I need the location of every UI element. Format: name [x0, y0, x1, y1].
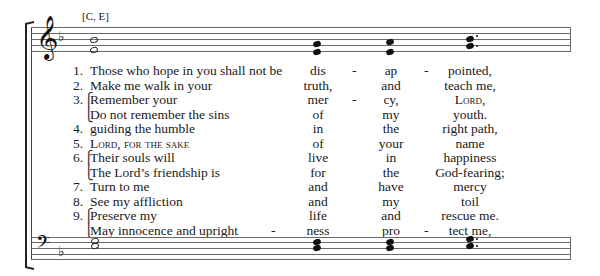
syllable-3: pointed, — [425, 63, 515, 78]
syllable-3: toil — [425, 194, 515, 209]
whole-note-icon — [89, 46, 99, 54]
syllable-1: live — [288, 150, 348, 165]
staff-end-barline — [570, 27, 571, 52]
note-head-icon — [312, 40, 322, 48]
verse-row: 5. Lord, for the sake of your name — [0, 136, 600, 151]
bass-clef-icon: 𝄢 — [36, 234, 50, 256]
verse-text: Remember your — [90, 92, 177, 107]
flat-key-signature-icon: ♭ — [58, 244, 65, 258]
syllable-2: the — [361, 165, 421, 180]
syllable-3: God-fearing; — [425, 165, 515, 180]
syllable-1: of — [288, 107, 348, 122]
note-head-icon — [385, 244, 395, 252]
system-bracket-top-hook — [25, 21, 34, 25]
syllable-1: for — [288, 165, 348, 180]
treble-clef-icon: 𝄞 — [36, 18, 58, 56]
syllable-2: my — [361, 107, 421, 122]
chord-label: [C, E] — [82, 10, 109, 22]
syllable-2: my — [361, 194, 421, 209]
staff-line — [31, 242, 571, 243]
syllable-1: and — [288, 179, 348, 194]
staff-line — [31, 33, 571, 34]
whole-note-icon — [89, 36, 99, 44]
syllable-3: rescue me. — [425, 208, 515, 223]
syllable-3: mercy — [425, 179, 515, 194]
verse-number: 3. — [73, 92, 83, 107]
verse-row: ⎩ The Lord’s friendship is for the God-f… — [0, 165, 600, 180]
augmentation-dot-icon — [476, 238, 478, 240]
staff-line — [31, 259, 571, 260]
syllable-2: cy, — [361, 92, 421, 107]
syllable-3: name — [425, 136, 515, 151]
augmentation-dot-icon — [476, 245, 478, 247]
syllable-3: Lord, — [425, 92, 515, 107]
verse-number: 4. — [73, 121, 83, 136]
verse-text: Preserve my — [90, 208, 157, 223]
syllable-2: ap — [361, 63, 421, 78]
augmentation-dot-icon — [476, 35, 478, 37]
hyphen-1: - — [352, 92, 357, 107]
verse-text: The Lord’s friendship is — [90, 165, 220, 180]
verse-number: 9. — [73, 208, 83, 223]
verse-row: ⎩ Do not remember the sins of my youth. — [0, 107, 600, 122]
verse-text: Their souls will — [90, 150, 175, 165]
verse-row: 1. Those who hope in you shall not be di… — [0, 63, 600, 78]
verse-text: May innocence and upright — [90, 223, 238, 238]
syllable-3: teach me, — [425, 78, 515, 93]
staff-line — [31, 27, 571, 28]
verse-number: 2. — [73, 78, 83, 93]
syllable-3: happiness — [425, 150, 515, 165]
augmentation-dot-icon — [476, 45, 478, 47]
verse-row: 7. Turn to me and have mercy — [0, 179, 600, 194]
syllable-1: truth, — [288, 78, 348, 93]
verse-text: Make me walk in your — [90, 78, 212, 93]
syllable-1: and — [288, 194, 348, 209]
verse-text: See my affliction — [90, 194, 183, 209]
syllable-2: and — [361, 208, 421, 223]
note-head-icon — [312, 48, 322, 56]
syllable-1: dis — [288, 63, 348, 78]
syllable-2: in — [361, 150, 421, 165]
hyphen-0: - — [271, 223, 276, 238]
syllable-3: right path, — [425, 121, 515, 136]
verse-row: ⎩ May innocence and upright - ness pro -… — [0, 223, 600, 238]
hyphen-1: - — [352, 63, 357, 78]
syllable-1: of — [288, 136, 348, 151]
staff-line — [31, 45, 571, 46]
verse-row: 6. ⎧ Their souls will live in happiness — [0, 150, 600, 165]
syllable-2: the — [361, 121, 421, 136]
verse-number: 5. — [73, 136, 83, 151]
verse-text: Do not remember the sins — [90, 107, 229, 122]
syllable-2: pro — [361, 223, 421, 238]
verse-text: guiding the humble — [90, 121, 195, 136]
verse-number: 7. — [73, 179, 83, 194]
verse-text: Those who hope in you shall not be — [90, 63, 282, 78]
flat-key-signature-icon: ♭ — [58, 29, 65, 43]
staff-line — [31, 51, 571, 52]
syllable-1: ness — [288, 223, 348, 238]
verse-number: 6. — [73, 150, 83, 165]
syllable-1: in — [288, 121, 348, 136]
syllable-1: life — [288, 208, 348, 223]
verse-row: 8. See my affliction and my toil — [0, 194, 600, 209]
note-head-icon — [312, 244, 322, 252]
verse-row: 9. ⎧ Preserve my life and rescue me. — [0, 208, 600, 223]
verse-number: 8. — [73, 194, 83, 209]
staff-end-barline — [570, 237, 571, 260]
staff-line — [31, 248, 571, 249]
system-bracket-bottom-hook — [25, 266, 34, 270]
syllable-2: and — [361, 78, 421, 93]
verse-row: 4. guiding the humble in the right path, — [0, 121, 600, 136]
syllable-1: mer — [288, 92, 348, 107]
staff-line — [31, 39, 571, 40]
verse-row: 3. ⎧ Remember your mer - cy, Lord, — [0, 92, 600, 107]
verse-text: Turn to me — [90, 179, 150, 194]
verse-row: 2. Make me walk in your truth, and teach… — [0, 78, 600, 93]
staff-line — [31, 254, 571, 255]
note-head-icon — [465, 42, 475, 50]
syllable-2: have — [361, 179, 421, 194]
staff-line — [31, 237, 571, 238]
verse-text: Lord, for the sake — [90, 136, 189, 151]
syllable-2: your — [361, 136, 421, 151]
syllable-3: youth. — [425, 107, 515, 122]
